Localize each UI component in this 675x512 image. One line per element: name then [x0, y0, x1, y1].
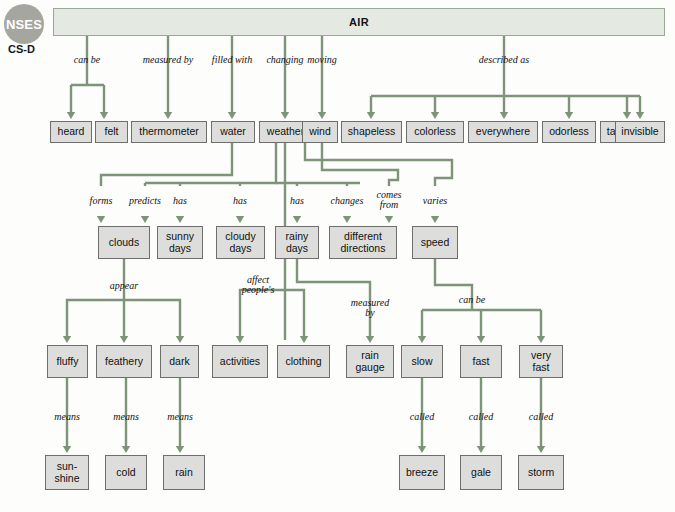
- node-cloudydays[interactable]: cloudy days: [216, 226, 265, 259]
- edge-label-has-3: has: [290, 196, 304, 206]
- edge-label-has-2: has: [233, 196, 247, 206]
- connector-arrowhead: [293, 216, 301, 223]
- node-fluffy[interactable]: fluffy: [47, 345, 88, 378]
- node-sunnydays[interactable]: sunny days: [157, 226, 203, 259]
- node-label: felt: [101, 126, 121, 137]
- node-everywhere[interactable]: everywhere: [468, 121, 538, 143]
- node-diffdir[interactable]: different directions: [329, 226, 397, 259]
- connector-arrowhead: [477, 336, 485, 343]
- connector-line: [322, 143, 398, 186]
- edge-label-means-1: means: [54, 412, 80, 422]
- edge-label-changing: changing: [266, 55, 303, 65]
- connector-arrowhead: [477, 446, 485, 453]
- node-label: storm: [525, 467, 557, 478]
- node-label: everywhere: [473, 126, 533, 137]
- connector-arrowhead: [67, 112, 75, 119]
- node-label: rain: [172, 467, 196, 478]
- node-label: speed: [418, 237, 453, 248]
- node-cold[interactable]: cold: [105, 455, 147, 490]
- connector-line: [67, 259, 124, 338]
- connector-arrowhead: [176, 216, 184, 223]
- node-label: very fast: [528, 350, 554, 373]
- node-label: water: [217, 126, 249, 137]
- root-node-label: AIR: [349, 16, 369, 28]
- node-dark[interactable]: dark: [160, 345, 199, 378]
- edge-label-moving: moving: [307, 55, 336, 65]
- node-speed[interactable]: speed: [412, 226, 458, 259]
- node-sunshine[interactable]: sun- shine: [45, 455, 89, 490]
- connector-arrowhead: [431, 112, 439, 119]
- node-label: cloudy days: [222, 231, 258, 254]
- nses-badge-code: CS-D: [8, 43, 35, 55]
- connector-arrowhead: [537, 446, 545, 453]
- node-label: gale: [468, 467, 494, 478]
- node-fast[interactable]: fast: [460, 345, 502, 378]
- node-label: colorless: [411, 126, 458, 137]
- connector-line: [145, 143, 276, 183]
- connector-arrowhead: [63, 336, 71, 343]
- node-label: thermometer: [136, 126, 202, 137]
- node-label: rainy days: [283, 231, 312, 254]
- node-breeze[interactable]: breeze: [399, 455, 445, 490]
- node-gale[interactable]: gale: [460, 455, 502, 490]
- node-slow[interactable]: slow: [401, 345, 443, 378]
- node-label: breeze: [403, 467, 441, 478]
- node-colorless[interactable]: colorless: [406, 121, 464, 143]
- edge-label-comes-from: comes from: [377, 190, 402, 210]
- edge-label-described-as: described as: [479, 55, 529, 65]
- node-odorless[interactable]: odorless: [542, 121, 596, 143]
- node-label: weather: [264, 126, 307, 137]
- connector-arrowhead: [228, 112, 236, 119]
- edge-label-varies: varies: [423, 196, 447, 206]
- node-storm[interactable]: storm: [518, 455, 564, 490]
- connector-arrowhead: [120, 336, 128, 343]
- connector-arrowhead: [122, 446, 130, 453]
- node-invisible[interactable]: invisible: [615, 121, 665, 143]
- node-label: sun- shine: [51, 461, 82, 484]
- connector-arrowhead: [565, 112, 573, 119]
- connector-arrowhead: [623, 112, 631, 119]
- node-wind[interactable]: wind: [302, 121, 338, 143]
- connector-arrowhead: [366, 336, 374, 343]
- node-label: cold: [113, 467, 138, 478]
- node-rain[interactable]: rain: [163, 455, 205, 490]
- connector-line: [258, 290, 304, 338]
- connector-arrowhead: [281, 112, 289, 119]
- connector-arrowhead: [141, 216, 149, 223]
- connector-line: [101, 143, 232, 186]
- node-label: sunny days: [163, 231, 197, 254]
- connector-arrowhead: [431, 216, 439, 223]
- node-label: heard: [55, 126, 88, 137]
- node-water[interactable]: water: [211, 121, 255, 143]
- edge-label-forms: forms: [90, 196, 113, 206]
- connector-line: [305, 143, 452, 186]
- node-label: odorless: [546, 126, 592, 137]
- node-label: different directions: [338, 231, 389, 254]
- node-clouds[interactable]: clouds: [98, 226, 150, 259]
- edge-label-appear: appear: [110, 281, 138, 291]
- connector-arrowhead: [318, 112, 326, 119]
- edge-label-measured-by-2: measured by: [351, 298, 390, 318]
- node-activities[interactable]: activities: [212, 345, 268, 378]
- connector-arrowhead: [636, 112, 644, 119]
- nses-badge: NSES CS-D: [4, 4, 48, 48]
- nses-badge-label: NSES: [6, 17, 42, 32]
- connector-arrowhead: [100, 112, 108, 119]
- connector-arrowhead: [236, 216, 244, 223]
- node-felt[interactable]: felt: [95, 121, 128, 143]
- node-clothing[interactable]: clothing: [277, 345, 330, 378]
- edge-label-can-be-2: can be: [459, 295, 485, 305]
- node-feathery[interactable]: feathery: [96, 345, 152, 378]
- node-thermometer[interactable]: thermometer: [131, 121, 207, 143]
- edge-label-means-3: means: [167, 412, 193, 422]
- edge-label-called-3: called: [529, 412, 553, 422]
- node-label: shapeless: [345, 126, 398, 137]
- node-raingauge[interactable]: rain gauge: [346, 345, 394, 378]
- node-shapeless[interactable]: shapeless: [341, 121, 402, 143]
- connector-arrowhead: [300, 336, 308, 343]
- connector-arrowhead: [63, 446, 71, 453]
- node-heard[interactable]: heard: [50, 121, 92, 143]
- node-rainydays[interactable]: rainy days: [275, 226, 319, 259]
- edge-label-filled-with: filled with: [212, 55, 252, 65]
- node-veryfast[interactable]: very fast: [519, 345, 563, 378]
